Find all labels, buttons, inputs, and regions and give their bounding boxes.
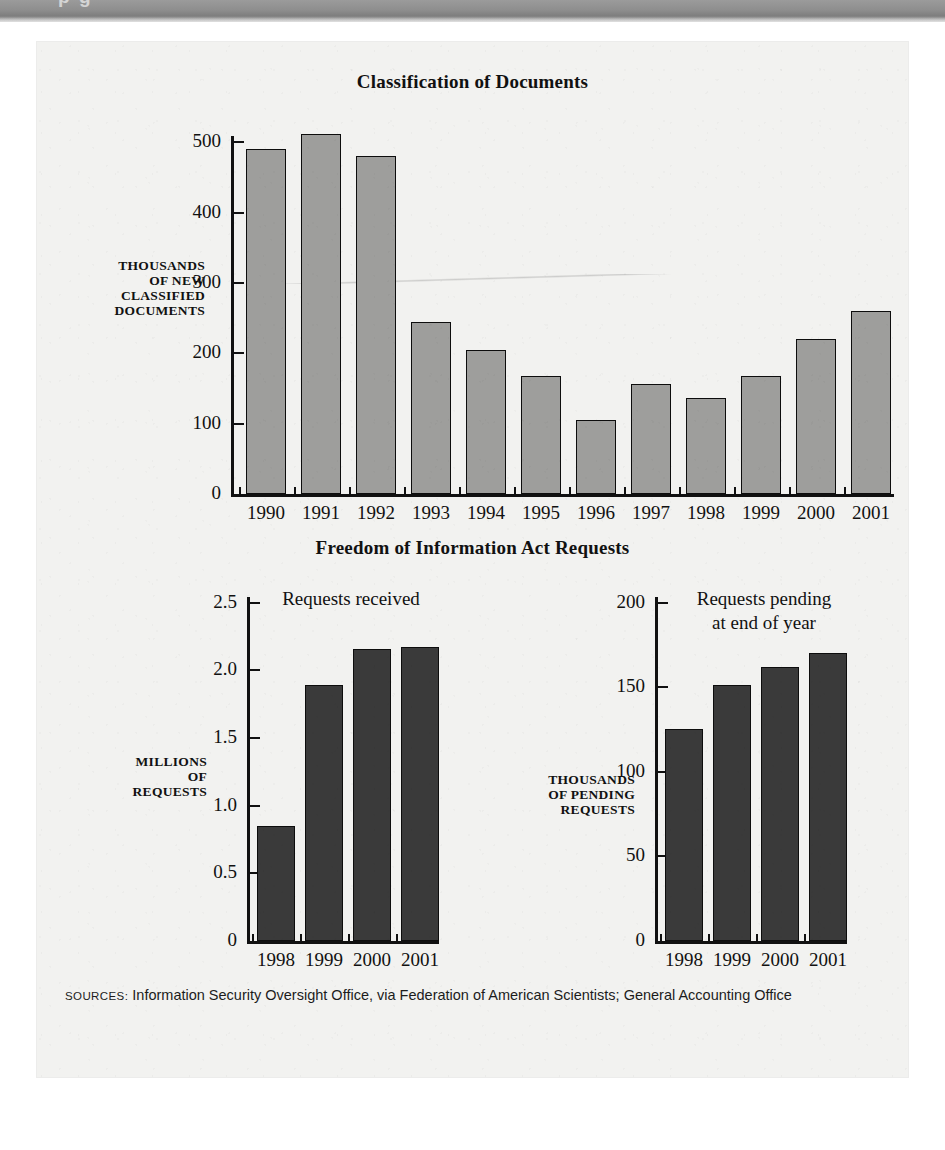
x-axis-tick [789, 487, 791, 494]
y-axis-caption-line: REQUESTS [485, 802, 635, 817]
bar [761, 667, 799, 941]
x-axis-line [231, 494, 894, 497]
plot-annotation-line: at end of year [659, 611, 869, 635]
x-axis-tick-label: 1994 [459, 502, 514, 524]
y-axis-tick [250, 737, 260, 739]
x-axis-tick [348, 934, 350, 941]
y-axis-tick [234, 423, 244, 425]
page-header-banner: p g [0, 0, 945, 22]
bar-body [665, 729, 703, 941]
x-axis-tick [734, 487, 736, 494]
y-axis-caption-line: DOCUMENTS [55, 303, 205, 318]
bar-body [356, 156, 396, 494]
plot-annotation: Requests pendingat end of year [659, 587, 869, 635]
bar-body [246, 149, 286, 494]
y-axis-tick-label: 2.5 [175, 591, 237, 613]
x-axis-tick [459, 487, 461, 494]
banner-sheen [0, 17, 945, 22]
y-axis-caption: MILLIONSOFREQUESTS [77, 754, 207, 799]
bar [851, 311, 891, 494]
x-axis-line [655, 941, 847, 944]
bar-body [301, 134, 341, 494]
plot-annotation-line: Requests received [251, 587, 451, 611]
sources-text: Information Security Oversight Office, v… [128, 987, 792, 1003]
bar [741, 376, 781, 494]
bar [713, 685, 751, 941]
x-axis-tick-label: 2000 [789, 502, 844, 524]
y-axis-tick [234, 212, 244, 214]
plot-annotation-line: Requests pending [659, 587, 869, 611]
y-axis-tick [234, 282, 244, 284]
x-axis-tick [514, 487, 516, 494]
x-axis-tick [756, 934, 758, 941]
x-axis-line [247, 941, 439, 944]
bar [356, 156, 396, 494]
y-axis-caption-line: CLASSIFIED [55, 288, 205, 303]
y-axis-line [231, 136, 234, 494]
y-axis-tick [234, 141, 244, 143]
x-axis-tick [708, 934, 710, 941]
banner-clipped-text: p g [58, 0, 93, 8]
x-axis-tick [404, 487, 406, 494]
x-axis-tick [396, 934, 398, 941]
bar [665, 729, 703, 941]
y-axis-caption-line: OF PENDING [485, 787, 635, 802]
y-axis-caption-line: OF [77, 769, 207, 784]
x-axis-tick-label: 1998 [679, 502, 734, 524]
bar-body [257, 826, 295, 941]
bar [411, 322, 451, 494]
y-axis-caption: THOUSANDSOF PENDINGREQUESTS [485, 772, 635, 817]
x-axis-tick [624, 487, 626, 494]
bar-body [741, 376, 781, 494]
x-axis-tick-label: 1993 [404, 502, 459, 524]
x-axis-tick [294, 487, 296, 494]
bar [353, 649, 391, 941]
x-axis-tick-label: 1995 [514, 502, 569, 524]
bar-body [809, 653, 847, 941]
bar-body [305, 685, 343, 941]
bar-body [851, 311, 891, 494]
sources-label: SOURCES: [65, 990, 128, 1002]
y-axis-tick [234, 352, 244, 354]
x-axis-tick [660, 934, 662, 941]
bar-body [466, 350, 506, 494]
y-axis-caption: THOUSANDSOF NEWCLASSIFIEDDOCUMENTS [55, 258, 205, 318]
x-axis-tick [569, 487, 571, 494]
y-axis-tick [250, 669, 260, 671]
y-axis-tick [658, 686, 668, 688]
x-axis-tick [679, 487, 681, 494]
y-axis-caption-line: THOUSANDS [55, 258, 205, 273]
y-axis-caption-line: REQUESTS [77, 784, 207, 799]
sources-note: SOURCES: Information Security Oversight … [65, 985, 865, 1007]
bar [809, 653, 847, 941]
x-axis-tick-label: 1998 [660, 949, 708, 971]
y-axis-caption-line: THOUSANDS [485, 772, 635, 787]
x-axis-tick [239, 487, 241, 494]
y-axis-tick-label: 0 [583, 929, 645, 951]
x-axis-tick-label: 1999 [734, 502, 789, 524]
x-axis-tick [804, 934, 806, 941]
x-axis-tick [300, 934, 302, 941]
x-axis-tick-label: 1996 [569, 502, 624, 524]
x-axis-tick-label: 2001 [396, 949, 444, 971]
y-axis-tick-label: 150 [583, 675, 645, 697]
y-axis-tick-label: 400 [159, 201, 221, 223]
plot-annotation: Requests received [251, 587, 451, 611]
x-axis-tick [349, 487, 351, 494]
bar [576, 420, 616, 494]
bar [796, 339, 836, 494]
x-axis-tick-label: 1991 [294, 502, 349, 524]
y-axis-tick-label: 50 [583, 844, 645, 866]
y-axis-tick-label: 1.5 [175, 726, 237, 748]
y-axis-tick-label: 0 [159, 482, 221, 504]
bar [521, 376, 561, 494]
y-axis-line [655, 597, 658, 941]
bar [631, 384, 671, 494]
bar [305, 685, 343, 941]
bar-body [353, 649, 391, 941]
bar [686, 398, 726, 494]
y-axis-tick-label: 0.5 [175, 861, 237, 883]
y-axis-line [247, 597, 250, 941]
y-axis-caption-line: MILLIONS [77, 754, 207, 769]
y-axis-tick-label: 100 [159, 412, 221, 434]
